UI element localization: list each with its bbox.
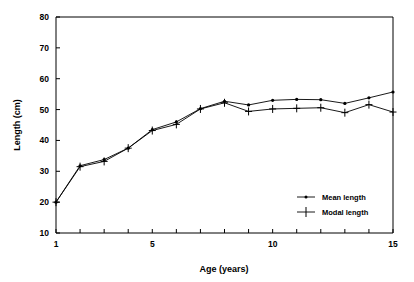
- y-tick-label-70: 70: [40, 43, 50, 53]
- line-chart: 1020304050607080 151015 Length (cm) Age …: [0, 0, 414, 282]
- y-tick-label-60: 60: [40, 74, 50, 84]
- x-tick-label-5: 5: [150, 239, 155, 249]
- chart-background: [0, 0, 414, 282]
- y-tick-label-20: 20: [40, 197, 50, 207]
- y-tick-label-10: 10: [40, 228, 50, 238]
- x-axis-title: Age (years): [199, 264, 248, 274]
- data-point-dot: [343, 102, 346, 105]
- data-point-dot: [367, 96, 370, 99]
- legend-label-modal: Modal length: [322, 208, 369, 217]
- dot-icon: [305, 196, 308, 199]
- x-tick-label-1: 1: [54, 239, 59, 249]
- x-tick-label-15: 15: [388, 239, 398, 249]
- y-tick-label-30: 30: [40, 166, 50, 176]
- data-point-dot: [295, 98, 298, 101]
- y-tick-label-40: 40: [40, 135, 50, 145]
- legend-label-mean: Mean length: [322, 193, 366, 202]
- y-tick-label-80: 80: [40, 12, 50, 22]
- data-point-dot: [247, 103, 250, 106]
- y-axis-title: Length (cm): [12, 99, 22, 151]
- data-point-dot: [271, 99, 274, 102]
- x-tick-label-10: 10: [268, 239, 278, 249]
- data-point-dot: [319, 98, 322, 101]
- y-tick-label-50: 50: [40, 105, 50, 115]
- data-point-dot: [391, 90, 394, 93]
